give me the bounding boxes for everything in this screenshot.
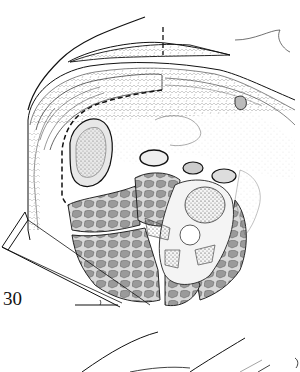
kidney xyxy=(70,119,112,186)
figure-number: 30 xyxy=(3,288,22,310)
upper-right-skin-fold xyxy=(235,30,290,52)
lamina-left xyxy=(165,250,180,268)
vertebral-body xyxy=(185,187,225,223)
erector-spinae-muscle xyxy=(72,228,160,302)
next-figure-outline xyxy=(82,332,298,372)
anatomical-illustration xyxy=(0,0,300,372)
subcutaneous-fat-layer xyxy=(70,44,230,62)
quadratus-lumborum-muscle xyxy=(68,185,140,232)
spinal-canal xyxy=(180,225,200,245)
